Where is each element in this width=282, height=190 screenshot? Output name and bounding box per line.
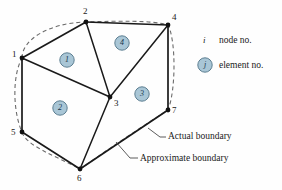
node-label-1: 1 [12, 50, 17, 59]
annotation-actual-boundary: Actual boundary [168, 132, 232, 142]
element-circles [53, 36, 149, 115]
node-label-6: 6 [77, 174, 82, 183]
leader-approximate-boundary [116, 142, 138, 158]
node-marker-3 [108, 95, 113, 100]
legend-node-text: node no. [219, 36, 252, 46]
node-marker-7 [166, 108, 171, 113]
legend-element-text: element no. [219, 61, 263, 71]
node-label-4: 4 [172, 13, 177, 22]
annotation-approximate-boundary: Approximate boundary [140, 154, 228, 164]
element-circle-3 [135, 87, 149, 101]
legend-element-symbol: j [198, 58, 213, 73]
node-label-3: 3 [114, 99, 119, 108]
element-circle-4 [115, 36, 129, 50]
leader-actual-boundary [148, 128, 166, 137]
edge-6-5 [22, 132, 80, 169]
legend-node-symbol: i [203, 36, 206, 45]
node-marker-1 [20, 56, 25, 61]
node-label-5: 5 [11, 128, 16, 137]
node-marker-2 [84, 20, 89, 25]
node-marker-6 [78, 167, 83, 172]
node-label-7: 7 [172, 106, 177, 115]
element-circle-1 [60, 53, 74, 67]
edge-2-3 [86, 22, 110, 97]
node-label-2: 2 [83, 7, 88, 16]
node-marker-5 [20, 130, 25, 135]
node-marker-4 [166, 23, 171, 28]
element-circle-2 [53, 101, 67, 115]
actual-boundary-curve [15, 21, 174, 169]
edge-3-4 [110, 25, 168, 97]
